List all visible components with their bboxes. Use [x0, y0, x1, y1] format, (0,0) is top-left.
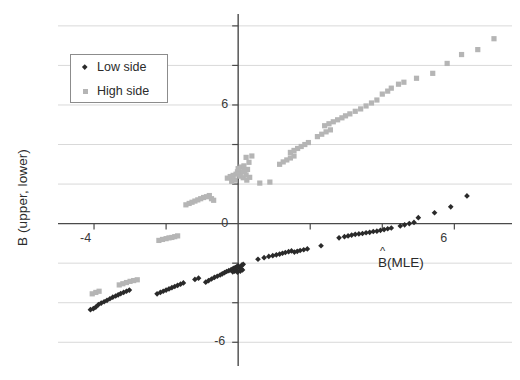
x-axis-label-suffix: (MLE): [387, 255, 424, 270]
y-tick-label: 0: [221, 216, 228, 230]
legend-item-high-side: High side: [71, 79, 167, 103]
legend-marker-low-side-icon: [79, 65, 91, 69]
chart-legend: Low side High side: [70, 54, 168, 103]
x-axis-label-symbol: B: [378, 255, 387, 270]
x-tick-label: 6: [440, 231, 447, 245]
y-tick-label: -6: [214, 334, 225, 348]
series-low-side-points: [88, 193, 470, 312]
hat-accent-icon: ^: [380, 246, 385, 257]
chart-figure: B (upper, lower) ^B(MLE) -46-606 Low sid…: [0, 0, 520, 380]
y-tick-label: 6: [221, 97, 228, 111]
legend-label-high-side: High side: [97, 84, 149, 98]
x-tick-label: -4: [80, 231, 91, 245]
legend-marker-high-side-icon: [79, 89, 91, 94]
legend-label-low-side: Low side: [97, 60, 146, 74]
x-axis-label-base: ^B: [378, 255, 387, 270]
x-axis-label: ^B(MLE): [378, 255, 424, 270]
y-axis-label: B (upper, lower): [15, 118, 30, 278]
legend-item-low-side: Low side: [71, 55, 167, 79]
